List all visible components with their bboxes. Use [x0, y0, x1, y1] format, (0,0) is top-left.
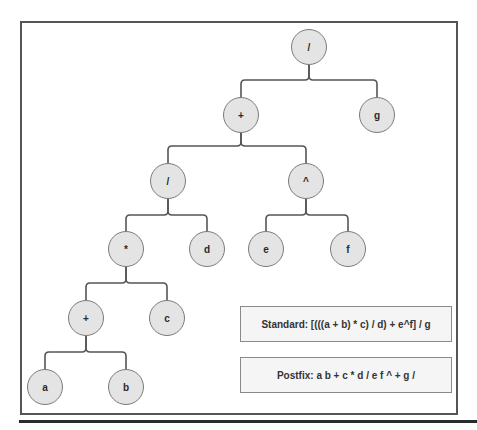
tree-node-c: c — [149, 300, 185, 336]
tree-edge — [306, 199, 348, 231]
tree-edge — [126, 199, 168, 231]
tree-node-label: / — [308, 42, 311, 53]
tree-node-label: e — [263, 244, 269, 255]
tree-edge — [168, 199, 207, 231]
tree-node-label: + — [238, 110, 244, 121]
postfix-notation-text: Postfix: a b + c * d / e f ^ + g / — [277, 370, 415, 381]
tree-node-label: f — [346, 244, 349, 255]
tree-node-root: / — [291, 29, 327, 65]
tree-node-e: e — [248, 231, 284, 267]
tree-node-label: b — [123, 382, 129, 393]
tree-edge — [126, 267, 167, 300]
standard-notation-text: Standard: [(((a + b) * c) / d) + e^f] / … — [261, 319, 430, 330]
tree-node-label: c — [164, 313, 170, 324]
tree-edge — [86, 267, 126, 300]
tree-node-b: b — [108, 369, 144, 405]
tree-node-label: d — [204, 244, 210, 255]
tree-edge — [241, 133, 306, 163]
standard-notation-box: Standard: [(((a + b) * c) / d) + e^f] / … — [240, 306, 452, 342]
tree-node-plus2: + — [68, 300, 104, 336]
tree-node-pow: ^ — [288, 163, 324, 199]
tree-edge — [168, 133, 241, 163]
tree-node-label: g — [374, 110, 380, 121]
tree-edge — [309, 65, 377, 97]
tree-node-label: * — [124, 244, 128, 255]
tree-node-f: f — [330, 231, 366, 267]
tree-node-label: / — [167, 176, 170, 187]
tree-node-d: d — [189, 231, 225, 267]
bottom-rule — [19, 420, 477, 423]
tree-node-mul: * — [108, 231, 144, 267]
tree-edge — [45, 336, 86, 369]
tree-edge — [266, 199, 306, 231]
tree-edge — [86, 336, 126, 369]
tree-edge — [241, 65, 309, 97]
tree-node-label: ^ — [303, 176, 309, 187]
tree-node-div2: / — [150, 163, 186, 199]
tree-node-label: a — [42, 382, 48, 393]
tree-node-a: a — [27, 369, 63, 405]
tree-node-label: + — [83, 313, 89, 324]
postfix-notation-box: Postfix: a b + c * d / e f ^ + g / — [240, 357, 452, 393]
tree-node-plus1: + — [223, 97, 259, 133]
tree-node-g: g — [359, 97, 395, 133]
